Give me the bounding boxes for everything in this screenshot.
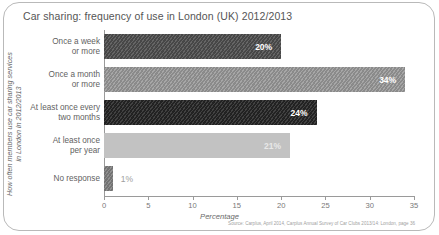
x-axis-tick-label: 30: [365, 201, 373, 210]
category-label: At least once per year: [0, 133, 100, 158]
source-note: Source: Carplus, April 2014, Carplus Ann…: [228, 221, 415, 226]
bar-value-label: 21%: [264, 141, 281, 151]
x-axis-tick: [370, 196, 371, 200]
category-label-text: At least once per year: [4, 136, 100, 156]
category-label-text: At least once every two months: [4, 103, 100, 123]
bar-value-label: 20%: [255, 42, 272, 52]
bar[interactable]: [104, 67, 405, 92]
chart-title: Car sharing: frequency of use in London …: [23, 10, 292, 22]
category-label-text: No response: [4, 174, 100, 184]
bar-row: 34%: [104, 67, 414, 92]
bar-row: 1%: [104, 166, 414, 191]
x-axis-tick-label: 35: [410, 201, 418, 210]
x-axis-tick: [325, 196, 326, 200]
category-label: No response: [0, 166, 100, 191]
x-axis-tick: [414, 196, 415, 200]
x-axis-tick-label: 10: [188, 201, 196, 210]
category-label-text: Once a week or more: [4, 37, 100, 57]
x-axis-tick-label: 25: [321, 201, 329, 210]
bar-row: 20%: [104, 34, 414, 59]
bar-value-label: 34%: [379, 75, 396, 85]
bar-row: 24%: [104, 100, 414, 125]
x-axis-tick: [104, 196, 105, 200]
x-axis-tick: [237, 196, 238, 200]
x-axis-tick-label: 5: [146, 201, 150, 210]
x-axis-tick: [148, 196, 149, 200]
bar-row: 21%: [104, 133, 414, 158]
x-axis-title: Percentage: [0, 212, 439, 221]
bar[interactable]: [104, 166, 113, 191]
bar-value-label: 1%: [121, 174, 133, 184]
category-label: At least once every two months: [0, 100, 100, 125]
category-label: Once a month or more: [0, 67, 100, 92]
x-axis-tick-label: 0: [102, 201, 106, 210]
category-label-text: Once a month or more: [4, 70, 100, 90]
category-label: Once a week or more: [0, 34, 100, 59]
x-axis-tick-label: 15: [233, 201, 241, 210]
x-axis-tick: [193, 196, 194, 200]
x-axis-tick: [281, 196, 282, 200]
x-axis-tick-label: 20: [277, 201, 285, 210]
bar-value-label: 24%: [291, 108, 308, 118]
bar[interactable]: [104, 100, 317, 125]
bar[interactable]: [104, 133, 290, 158]
x-axis-line: [104, 196, 415, 197]
chart-figure: Car sharing: frequency of use in London …: [0, 0, 439, 235]
